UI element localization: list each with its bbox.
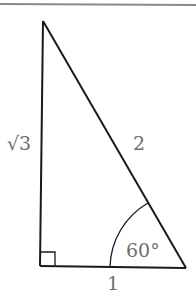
label-angle: 60° bbox=[126, 239, 160, 261]
vertical-side bbox=[40, 21, 43, 266]
label-vertical-side: √3 bbox=[7, 132, 31, 154]
label-base: 1 bbox=[107, 272, 119, 294]
right-angle-marker bbox=[40, 252, 55, 266]
top-border-line bbox=[0, 4, 196, 5]
label-hypotenuse: 2 bbox=[133, 132, 145, 154]
base-side bbox=[40, 266, 186, 268]
triangle-diagram: √3 2 60° 1 bbox=[0, 0, 196, 303]
hypotenuse bbox=[43, 21, 186, 268]
